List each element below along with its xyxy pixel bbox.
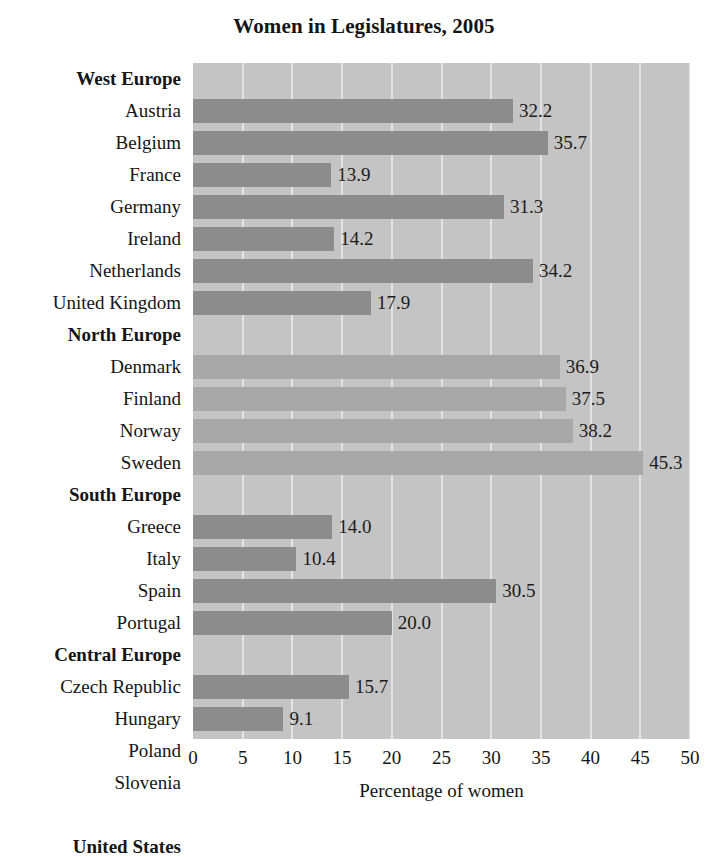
bar-value-label: 34.2 [539, 258, 572, 283]
bar-row: 14.0 [193, 511, 690, 543]
x-tick-label: 15 [333, 745, 352, 771]
bar [193, 675, 349, 699]
y-axis-label: Finland [0, 383, 187, 415]
y-axis-label: Greece [0, 511, 187, 543]
bar-value-label: 9.1 [289, 706, 313, 731]
y-axis-label: North Europe [0, 319, 187, 351]
bar-row: 36.9 [193, 351, 690, 383]
bar-row: 14.2 [193, 223, 690, 255]
y-axis-label: Slovenia [0, 767, 187, 799]
y-axis-label: Hungary [0, 703, 187, 735]
bar-row: 17.9 [193, 287, 690, 319]
bar [193, 387, 566, 411]
bar-row: 45.3 [193, 447, 690, 479]
y-axis-label: Denmark [0, 351, 187, 383]
bar-row: 9.1 [193, 703, 690, 735]
bar [193, 355, 560, 379]
bar [193, 707, 283, 731]
bar-value-label: 37.5 [572, 386, 605, 411]
y-axis-label: Norway [0, 415, 187, 447]
y-axis-label: Portugal [0, 607, 187, 639]
x-tick-label: 25 [432, 745, 451, 771]
bar-value-label: 14.0 [338, 514, 371, 539]
spacer-row [193, 479, 690, 511]
y-axis-label: France [0, 159, 187, 191]
y-axis-label: Italy [0, 543, 187, 575]
bar-value-label: 31.3 [510, 194, 543, 219]
x-axis-title: Percentage of women [193, 780, 690, 802]
bar [193, 131, 548, 155]
bar-value-label: 10.4 [302, 546, 335, 571]
plot-area: 32.235.713.931.314.234.217.936.937.538.2… [193, 63, 690, 739]
bar-row: 37.5 [193, 383, 690, 415]
bar-row: 32.2 [193, 95, 690, 127]
y-axis-label: Germany [0, 191, 187, 223]
bar-value-label: 20.7 [405, 738, 438, 739]
chart-title: Women in Legislatures, 2005 [0, 14, 728, 39]
bar-row: 15.7 [193, 671, 690, 703]
x-tick-label: 20 [382, 745, 401, 771]
bar [193, 547, 296, 571]
y-axis-label: Central Europe [0, 639, 187, 671]
y-axis-label: West Europe [0, 63, 187, 95]
bar-value-label: 35.7 [554, 130, 587, 155]
bar-value-label: 30.5 [502, 578, 535, 603]
bar [193, 99, 513, 123]
spacer-row [193, 63, 690, 95]
bar-value-label: 20.0 [398, 610, 431, 635]
x-tick-label: 40 [581, 745, 600, 771]
bar [193, 163, 331, 187]
bar-row: 20.7 [193, 735, 690, 739]
bar [193, 451, 643, 475]
bar-value-label: 38.2 [579, 418, 612, 443]
bar-value-label: 32.2 [519, 98, 552, 123]
x-tick-label: 45 [631, 745, 650, 771]
y-axis-label: Ireland [0, 223, 187, 255]
bar-row: 31.3 [193, 191, 690, 223]
bar [193, 291, 371, 315]
bar [193, 419, 573, 443]
y-axis-label: Sweden [0, 447, 187, 479]
x-tick-label: 10 [283, 745, 302, 771]
y-axis-label: South Europe [0, 479, 187, 511]
x-tick-label: 50 [681, 745, 700, 771]
bar-row: 30.5 [193, 575, 690, 607]
bar-row: 20.0 [193, 607, 690, 639]
bar-value-label: 14.2 [340, 226, 373, 251]
bar [193, 227, 334, 251]
bar [193, 259, 533, 283]
x-axis-tick-labels: 05101520253035404550 [193, 745, 690, 771]
bar-row: 35.7 [193, 127, 690, 159]
y-axis-label: Austria [0, 95, 187, 127]
x-tick-label: 0 [188, 745, 198, 771]
x-tick-label: 35 [531, 745, 550, 771]
y-axis-label: Netherlands [0, 255, 187, 287]
y-axis-label: United Kingdom [0, 287, 187, 319]
bar-value-label: 13.9 [337, 162, 370, 187]
bar-row: 34.2 [193, 255, 690, 287]
y-axis-label: United States [0, 831, 187, 857]
bar [193, 195, 504, 219]
bar [193, 579, 496, 603]
x-tick-label: 5 [238, 745, 248, 771]
spacer-row [193, 319, 690, 351]
bar-value-label: 45.3 [649, 450, 682, 475]
x-tick-label: 30 [482, 745, 501, 771]
bar [193, 515, 332, 539]
bar-value-label: 17.9 [377, 290, 410, 315]
bar-row: 10.4 [193, 543, 690, 575]
bar-row: 13.9 [193, 159, 690, 191]
y-axis-label: Poland [0, 735, 187, 767]
y-axis-label: Belgium [0, 127, 187, 159]
bar-value-label: 15.7 [355, 674, 388, 699]
bar [193, 611, 392, 635]
bar-row: 38.2 [193, 415, 690, 447]
y-axis-label: Spain [0, 575, 187, 607]
y-axis-category-labels: West EuropeAustriaBelgiumFranceGermanyIr… [0, 63, 187, 739]
y-axis-label: Czech Republic [0, 671, 187, 703]
bar-value-label: 36.9 [566, 354, 599, 379]
spacer-row [193, 639, 690, 671]
